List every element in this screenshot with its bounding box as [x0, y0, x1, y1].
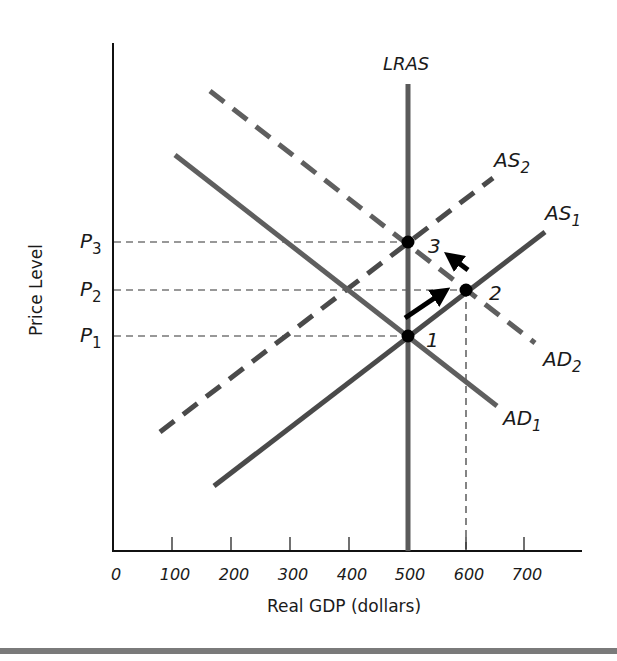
ad1-label: AD1	[501, 406, 542, 435]
x-axis-title: Real GDP (dollars)	[267, 596, 421, 616]
ad1-curve	[175, 155, 497, 406]
ad2-curve	[210, 91, 535, 343]
as1-label: AS1	[543, 201, 581, 230]
svg-text:500: 500	[395, 565, 426, 584]
point-3-label: 3	[428, 234, 441, 258]
y-axis-title: Price Level	[26, 244, 46, 336]
arrow-2-to-3	[452, 258, 468, 270]
p2-label: P2	[80, 277, 102, 306]
ad-as-chart: 1 2 3 LRAS AS2 AS1 AD2 AD1 P3 P2 P1 0 10…	[0, 0, 617, 661]
svg-text:200: 200	[219, 565, 250, 584]
svg-text:700: 700	[512, 565, 543, 584]
x-ticks	[172, 537, 524, 551]
as1-curve	[214, 232, 545, 486]
svg-text:100: 100	[160, 565, 191, 584]
lras-label: LRAS	[383, 53, 429, 74]
as2-label: AS2	[492, 148, 530, 177]
bottom-rule	[0, 648, 617, 654]
point-2-label: 2	[489, 281, 502, 305]
p1-label: P1	[80, 323, 102, 352]
svg-text:400: 400	[337, 565, 368, 584]
ad2-label: AD2	[541, 347, 582, 376]
point-1-label: 1	[426, 328, 439, 352]
guide-lines	[114, 242, 466, 551]
point-3	[402, 236, 415, 249]
x-tick-labels: 0 100 200 300 400 500 600 700	[111, 565, 542, 584]
svg-text:0: 0	[111, 565, 121, 584]
svg-text:300: 300	[278, 565, 309, 584]
point-1	[402, 330, 415, 343]
p3-label: P3	[80, 229, 102, 258]
svg-text:600: 600	[454, 565, 485, 584]
as2-curve	[160, 178, 493, 432]
point-2	[460, 284, 473, 297]
